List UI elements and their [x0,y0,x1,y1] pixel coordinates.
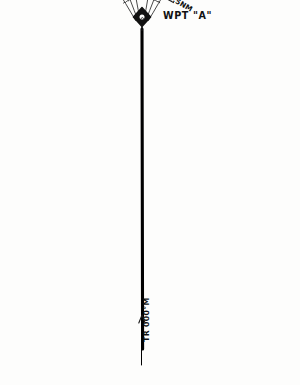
diagram-canvas: WPT "A" 0.5NM1.0NM1.5NM2.0NM2.5NM3.0NM3.… [0,0,300,385]
range-ring-arcs [0,0,300,3]
track-label: TR 000°M [143,298,151,342]
waypoint-diamond-icon [133,8,150,32]
